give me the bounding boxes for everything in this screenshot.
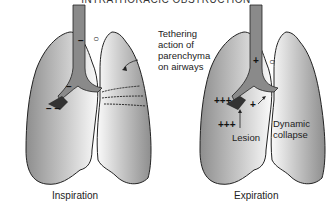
pleural-pressure-sign-expiration: +++ <box>214 96 232 106</box>
dynamic-collapse-annotation: Dynamic collapse <box>273 118 310 140</box>
lesion-pressure-sign-expiration: +++ <box>218 120 236 130</box>
airway-pressure-sign-expiration: + <box>250 100 256 110</box>
trachea-pressure-sign-inspiration: − <box>78 36 84 46</box>
trachea-pressure-sign-expiration: + <box>253 56 259 66</box>
reference-pressure-symbol-inspiration: ○ <box>93 33 99 44</box>
inspiration-caption: Inspiration <box>52 190 98 201</box>
reference-pressure-symbol-expiration: ○ <box>269 56 275 67</box>
lesion-annotation: Lesion <box>232 132 260 143</box>
pleural-pressure-sign-inspiration: − <box>66 82 72 92</box>
tethering-annotation: Tethering action of parenchyma on airway… <box>158 28 210 72</box>
lesion-pressure-sign-inspiration: − − <box>46 104 60 114</box>
expiration-caption: Expiration <box>234 190 278 201</box>
inspiration-lungs <box>26 5 151 184</box>
